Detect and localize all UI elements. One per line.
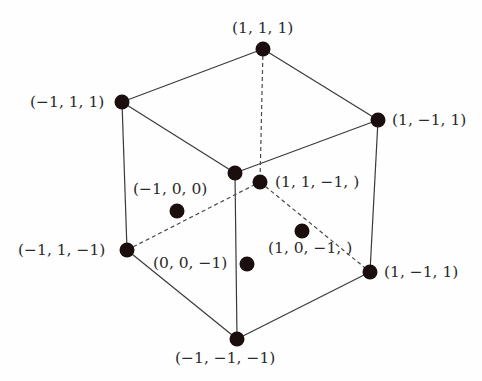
point-p-right-bottom bbox=[363, 265, 378, 280]
edge-solid bbox=[235, 173, 237, 339]
edge-solid bbox=[122, 49, 263, 102]
cube-svg: (1, 1, 1)(−1, 1, 1)(1, −1, 1)(1, 1, −1, … bbox=[0, 0, 482, 381]
label-p-left-top: (−1, 1, 1) bbox=[30, 93, 104, 111]
label-p-face-right: (1, 0, −1, ) bbox=[268, 239, 352, 257]
label-p-bottom: (−1, −1, −1) bbox=[175, 349, 275, 367]
edge-solid bbox=[370, 120, 378, 272]
edge-hidden-dashed bbox=[260, 49, 263, 182]
edge-solid bbox=[237, 272, 370, 339]
point-p-face-left bbox=[170, 204, 185, 219]
label-p-left-bottom: (−1, 1, −1) bbox=[18, 241, 105, 259]
label-p-face-left: (−1, 0, 0) bbox=[133, 180, 207, 198]
point-p-top bbox=[256, 42, 271, 57]
label-p-top: (1, 1, 1) bbox=[232, 19, 293, 37]
point-p-face-right bbox=[295, 224, 310, 239]
edge-solid bbox=[263, 49, 378, 120]
label-p-back-center: (1, 1, −1, ) bbox=[275, 173, 359, 191]
point-p-right-top bbox=[371, 113, 386, 128]
point-p-back-center bbox=[253, 175, 268, 190]
point-p-left-top bbox=[115, 95, 130, 110]
edge-solid bbox=[122, 102, 235, 173]
edge-hidden-dashed bbox=[260, 182, 370, 272]
point-p-bottom bbox=[230, 332, 245, 347]
label-p-right-top: (1, −1, 1) bbox=[392, 111, 466, 129]
label-p-face-bottom: (0, 0, −1) bbox=[153, 254, 227, 272]
label-p-right-bottom: (1, −1, 1) bbox=[384, 263, 458, 281]
point-p-center-top bbox=[228, 166, 243, 181]
edge-solid bbox=[122, 102, 127, 250]
vertex-labels: (1, 1, 1)(−1, 1, 1)(1, −1, 1)(1, 1, −1, … bbox=[18, 19, 466, 367]
cube-diagram: (1, 1, 1)(−1, 1, 1)(1, −1, 1)(1, 1, −1, … bbox=[0, 0, 482, 381]
edge-solid bbox=[235, 120, 378, 173]
point-p-face-bottom bbox=[240, 257, 255, 272]
point-p-left-bottom bbox=[120, 243, 135, 258]
